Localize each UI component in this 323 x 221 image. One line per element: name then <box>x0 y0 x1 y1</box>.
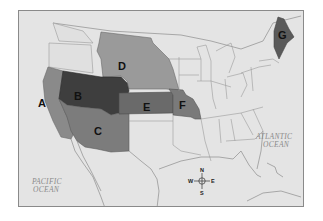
label-region-g: G <box>278 29 287 41</box>
compass-w: W <box>188 178 194 184</box>
label-region-d: D <box>118 60 126 72</box>
pacific-ocean-label-line2: OCEAN <box>33 185 60 194</box>
compass-s: S <box>200 190 204 196</box>
label-region-f: F <box>179 99 186 111</box>
us-map: A B C D E F G PACIFIC OCEAN ATLANTIC OCE… <box>19 11 304 207</box>
label-region-c: C <box>94 125 102 137</box>
map-frame: A B C D E F G PACIFIC OCEAN ATLANTIC OCE… <box>18 10 304 207</box>
label-region-b: B <box>74 90 82 102</box>
label-region-a: A <box>38 97 46 109</box>
compass-e: E <box>211 178 215 184</box>
atlantic-ocean-label-line2: OCEAN <box>263 140 290 149</box>
compass-n: N <box>200 167 204 173</box>
label-region-e: E <box>143 101 150 113</box>
